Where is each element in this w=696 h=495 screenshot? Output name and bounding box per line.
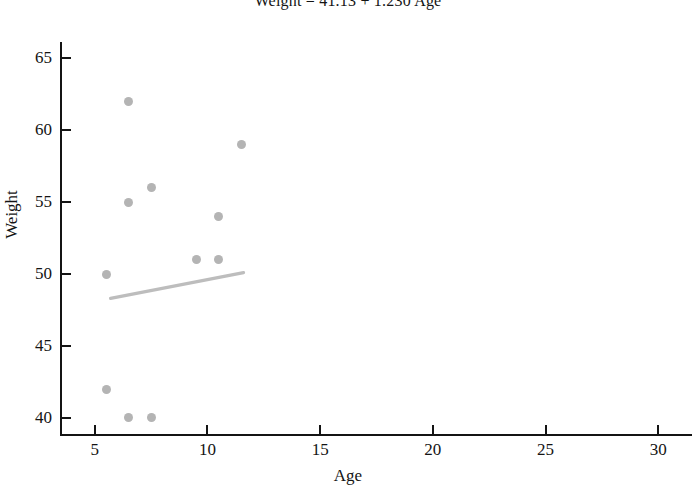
regression-line — [0, 0, 696, 495]
y-tick-mark — [62, 57, 71, 59]
y-axis-spine — [60, 42, 62, 436]
data-point — [102, 385, 111, 394]
y-tick-label: 45 — [8, 337, 52, 354]
x-tick-label: 10 — [182, 440, 232, 459]
x-tick-label: 5 — [70, 440, 120, 459]
x-tick-label: 20 — [408, 440, 458, 459]
data-point — [237, 140, 246, 149]
x-tick-mark — [319, 425, 321, 434]
y-tick-mark — [62, 417, 71, 419]
x-axis-spine — [60, 434, 692, 436]
y-tick-mark — [62, 201, 71, 203]
y-tick-mark — [62, 273, 71, 275]
x-tick-label: 30 — [633, 440, 683, 459]
y-tick-label: 40 — [8, 409, 52, 426]
x-tick-label: 25 — [521, 440, 571, 459]
scatter-chart: Weight = 41.13 + 1.230 Age 404550556065 … — [0, 0, 696, 495]
data-point — [147, 183, 156, 192]
x-tick-mark — [94, 425, 96, 434]
x-tick-mark — [545, 425, 547, 434]
x-tick-mark — [657, 425, 659, 434]
y-axis-title: Weight — [2, 185, 21, 245]
y-tick-label: 50 — [8, 265, 52, 282]
data-point — [214, 212, 223, 221]
data-point — [124, 413, 133, 422]
y-tick-mark — [62, 345, 71, 347]
x-tick-label: 15 — [295, 440, 345, 459]
data-point — [124, 97, 133, 106]
chart-title: Weight = 41.13 + 1.230 Age — [0, 0, 696, 10]
x-tick-mark — [206, 425, 208, 434]
data-point — [214, 255, 223, 264]
y-tick-label: 65 — [8, 49, 52, 66]
data-point — [192, 255, 201, 264]
y-tick-label: 60 — [8, 121, 52, 138]
data-point — [147, 413, 156, 422]
x-axis-title: Age — [0, 466, 696, 485]
data-point — [102, 270, 111, 279]
x-tick-mark — [432, 425, 434, 434]
y-tick-mark — [62, 129, 71, 131]
data-point — [124, 198, 133, 207]
